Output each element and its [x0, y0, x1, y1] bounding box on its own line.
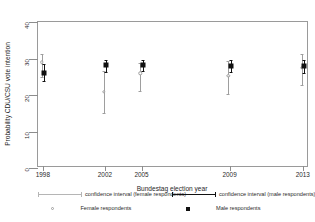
- chart-root: Probability CDU/CSU vote intention Bunde…: [0, 0, 315, 222]
- legend-row-points: Female respondents Male respondents: [0, 203, 315, 216]
- male-point-marker: [301, 64, 306, 69]
- y-axis-title: Probability CDU/CSU vote intention: [5, 42, 12, 146]
- y-tick-30: [29, 59, 38, 60]
- error-bar-cap-upper: [43, 64, 46, 65]
- error-bar-cap-lower: [105, 72, 108, 73]
- error-bar-cap-lower: [229, 72, 232, 73]
- female-point-marker: [102, 90, 105, 93]
- error-bar-cap-lower: [139, 91, 142, 92]
- filled-square-icon: [186, 207, 190, 211]
- legend-label-ci-female: confidence interval (female respondents): [85, 192, 186, 198]
- y-tick-label-0: 0: [24, 168, 30, 171]
- error-bar-cap-upper: [229, 60, 232, 61]
- error-bar-cap-upper: [227, 61, 230, 62]
- error-bar-cap-upper: [300, 54, 303, 55]
- x-tick-label-2005: 2005: [134, 172, 148, 178]
- error-bar-cap-upper: [105, 60, 108, 61]
- error-bar-cap-upper: [302, 60, 305, 61]
- error-bar-cap-lower: [40, 77, 43, 78]
- error-bar-cap-lower: [141, 71, 144, 72]
- legend-item-ci-male: confidence interval (male respondents): [172, 192, 315, 198]
- legend-item-ci-female: confidence interval (female respondents): [38, 192, 186, 198]
- legend-row-intervals: confidence interval (female respondents)…: [0, 192, 315, 203]
- error-bar-cap-upper: [40, 54, 43, 55]
- female-point-marker: [40, 60, 43, 63]
- open-circle-icon: [51, 207, 54, 210]
- legend-label-male: Male respondents: [216, 206, 260, 212]
- error-bar-cap-lower: [43, 81, 46, 82]
- y-tick-label-20: 20: [24, 95, 30, 102]
- y-tick-label-30: 30: [24, 59, 30, 66]
- y-tick-40: [29, 22, 38, 23]
- x-tick-label-1998: 1998: [36, 172, 50, 178]
- error-bar-cap-upper: [141, 60, 144, 61]
- error-bar-cap-lower: [302, 73, 305, 74]
- error-bar-cap-lower: [300, 85, 303, 86]
- male-point-marker: [228, 63, 233, 68]
- x-tick-label-2009: 2009: [222, 172, 236, 178]
- y-tick-20: [29, 95, 38, 96]
- x-tick-label-2002: 2002: [98, 172, 112, 178]
- male-point-marker: [140, 63, 145, 68]
- y-tick-10: [29, 132, 38, 133]
- y-tick-label-10: 10: [24, 132, 30, 139]
- chart-legend: confidence interval (female respondents)…: [0, 192, 315, 216]
- male-point-marker: [104, 63, 109, 68]
- y-tick-label-40: 40: [24, 22, 30, 29]
- legend-item-male: Male respondents: [186, 206, 260, 212]
- ci-male-line-icon: [172, 192, 216, 197]
- male-point-marker: [42, 70, 47, 75]
- x-tick-label-2013: 2013: [296, 172, 310, 178]
- error-bar-cap-lower: [227, 94, 230, 95]
- female-point-marker: [139, 72, 142, 75]
- female-point-marker: [227, 74, 230, 77]
- ci-female-line-icon: [38, 192, 82, 197]
- legend-label-ci-male: confidence interval (male respondents): [219, 192, 315, 198]
- error-bar-cap-lower: [102, 113, 105, 114]
- legend-label-female: Female respondents: [80, 206, 131, 212]
- legend-item-female: Female respondents: [51, 206, 131, 212]
- plot-area: 010203040 19982002200520092013: [37, 21, 308, 167]
